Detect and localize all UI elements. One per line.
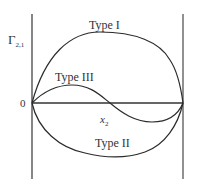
diagram-canvas: Γ2,1 0 x2 Type I Type II Type III bbox=[0, 0, 198, 189]
type-ii-label: Type II bbox=[95, 136, 130, 150]
type-i-label: Type I bbox=[89, 18, 120, 32]
y-axis-label: Γ2,1 bbox=[8, 32, 25, 49]
type-iii-label: Type III bbox=[55, 70, 94, 84]
type-i-curve bbox=[32, 32, 183, 103]
x-axis-label: x2 bbox=[99, 113, 109, 128]
origin-label: 0 bbox=[20, 97, 26, 109]
diagram-svg: Γ2,1 0 x2 Type I Type II Type III bbox=[0, 0, 198, 189]
